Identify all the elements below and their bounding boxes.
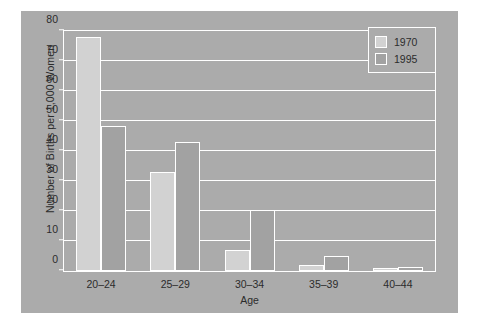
x-axis-tick-label: 20–24 [86, 278, 115, 290]
x-axis-tick-label: 40–44 [383, 278, 412, 290]
bar-group [299, 31, 349, 271]
bar-1970-35-39 [299, 265, 324, 271]
bar-1995-30-34 [250, 210, 275, 272]
y-axis-tick-label: 50 [46, 103, 58, 115]
bar-1995-25-29 [175, 142, 200, 271]
bar-group [225, 31, 275, 271]
legend-label-1995: 1995 [394, 53, 417, 65]
y-axis-tick-label: 10 [46, 223, 58, 235]
legend-swatch-1995 [375, 53, 387, 65]
y-axis-tick-label: 30 [46, 163, 58, 175]
bar-1995-35-39 [324, 256, 349, 271]
bar-group [150, 31, 200, 271]
x-axis-title: Age [63, 294, 436, 306]
legend-item-1970: 1970 [375, 33, 429, 50]
y-axis-tick-label: 70 [46, 43, 58, 55]
x-axis-tick-label: 30–34 [235, 278, 264, 290]
bar-1995-40-44 [398, 267, 423, 272]
bar-1970-25-29 [150, 172, 175, 271]
x-axis-tick-label: 25–29 [161, 278, 190, 290]
bar-1970-40-44 [373, 268, 398, 271]
chart-legend: 19701995 [368, 27, 436, 73]
y-axis-tick-label: 0 [52, 253, 58, 265]
x-axis-tick-label: 35–39 [309, 278, 338, 290]
y-axis-tick-label: 60 [46, 73, 58, 85]
legend-label-1970: 1970 [394, 36, 417, 48]
y-axis-tick-label: 20 [46, 193, 58, 205]
chart-figure: Number of Births per 1,000 Women 0102030… [21, 11, 458, 313]
y-axis-tick-label: 80 [46, 13, 58, 25]
bar-1995-20-24 [101, 126, 126, 272]
bar-1970-20-24 [76, 37, 101, 271]
legend-swatch-1970 [375, 36, 387, 48]
bar-group [76, 31, 126, 271]
bar-1970-30-34 [225, 250, 250, 271]
y-axis-tick-label: 40 [46, 133, 58, 145]
legend-item-1995: 1995 [375, 50, 429, 67]
